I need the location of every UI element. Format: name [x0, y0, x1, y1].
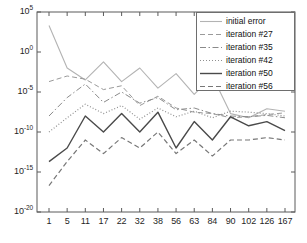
y-tick-label: 105 — [0, 6, 33, 16]
legend-line-sample — [199, 29, 223, 40]
legend-item-4[interactable]: iteration #42 — [197, 54, 294, 66]
legend-item-1[interactable]: initial error — [197, 15, 294, 27]
legend-item-6[interactable]: iteration #56 — [197, 80, 294, 92]
y-tick-label: 10-10 — [0, 126, 33, 136]
legend-item-label: iteration #42 — [226, 55, 273, 66]
y-tick-label: 10-20 — [0, 206, 33, 216]
legend-item-3[interactable]: iteration #35 — [197, 41, 294, 53]
legend-line-sample — [199, 16, 223, 27]
legend-item-label: iteration #35 — [226, 42, 273, 53]
legend-item-2[interactable]: iteration #27 — [197, 28, 294, 40]
legend-item-label: iteration #56 — [226, 81, 273, 92]
legend-line-sample — [199, 42, 223, 53]
y-tick-label: 10-5 — [0, 86, 33, 96]
legend-line-sample — [199, 81, 223, 92]
legend-item-label: initial error — [226, 16, 266, 27]
series-line-iteration-50 — [49, 112, 285, 161]
legend-line-sample — [199, 55, 223, 66]
figure-container: 10510010-510-1010-1510-20 15111722323856… — [0, 0, 307, 243]
legend-item-label: iteration #50 — [226, 68, 273, 79]
y-tick-label: 100 — [0, 46, 33, 56]
x-tick-label: 167 — [274, 216, 296, 226]
chart-legend[interactable]: initial erroriteration #27iteration #35i… — [196, 12, 295, 91]
legend-item-label: iteration #27 — [226, 29, 273, 40]
legend-item-5[interactable]: iteration #50 — [197, 67, 294, 79]
y-tick-label: 10-15 — [0, 166, 33, 176]
legend-line-sample — [199, 68, 223, 79]
series-line-iteration-56 — [49, 132, 285, 186]
